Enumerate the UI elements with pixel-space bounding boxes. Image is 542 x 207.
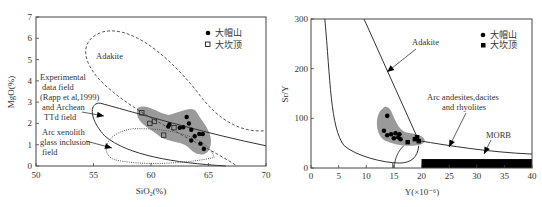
svg-text:1: 1 xyxy=(28,140,33,150)
svg-text:field: field xyxy=(42,147,58,157)
point-dakanding xyxy=(405,140,409,144)
annotation-arc-andesites: Arc andesites,dacites and rhyolites xyxy=(427,92,499,112)
svg-text:100: 100 xyxy=(295,113,309,123)
svg-text:Experimental: Experimental xyxy=(40,72,86,82)
point-damaoshan xyxy=(382,128,387,133)
point-damaoshan xyxy=(385,114,390,119)
svg-text:大坎顶: 大坎顶 xyxy=(490,39,517,50)
svg-text:(Rapp et al,1999): (Rapp et al,1999) xyxy=(40,92,99,102)
arc-curve xyxy=(419,141,532,154)
point-damaoshan xyxy=(397,132,402,137)
point-damaoshan xyxy=(201,132,205,136)
svg-text:35: 35 xyxy=(500,171,510,181)
point-dakanding xyxy=(415,135,419,139)
x-axis-label: Y(×10⁻⁶) xyxy=(405,187,439,197)
svg-text:4: 4 xyxy=(28,76,33,86)
svg-text:大帽山: 大帽山 xyxy=(490,29,517,40)
y-axis-label: MgO(%) xyxy=(6,76,16,109)
point-damaoshan xyxy=(202,147,206,151)
point-damaoshan xyxy=(181,125,185,129)
svg-text:Arc xenolith: Arc xenolith xyxy=(42,127,85,137)
svg-text:Arc andesites,dacites: Arc andesites,dacites xyxy=(427,92,499,102)
annotation-adakite: Adakite xyxy=(412,37,439,47)
point-damaoshan xyxy=(167,122,171,126)
annotation-morb: MORB xyxy=(486,130,511,140)
point-damaoshan xyxy=(189,128,193,132)
point-damaoshan xyxy=(398,137,403,142)
svg-text:5: 5 xyxy=(336,171,341,181)
legend: 大帽山 大坎顶 xyxy=(481,29,517,50)
point-damaoshan xyxy=(184,115,188,119)
svg-text:3: 3 xyxy=(28,97,33,107)
point-damaoshan xyxy=(193,134,197,138)
y-axis-label: Sr/Y xyxy=(280,85,290,103)
annotation-experimental: Experimental data field (Rapp et al,1999… xyxy=(40,72,99,122)
svg-text:大坎顶: 大坎顶 xyxy=(215,39,242,50)
svg-text:65: 65 xyxy=(204,170,214,180)
svg-text:30: 30 xyxy=(472,171,482,181)
svg-text:data field: data field xyxy=(42,82,75,92)
svg-text:0: 0 xyxy=(309,171,314,181)
point-damaoshan xyxy=(385,133,390,138)
svg-text:50: 50 xyxy=(32,170,42,180)
point-damaoshan xyxy=(198,141,202,145)
annotation-arc-xenolith: Arc xenolith glass inclusion field xyxy=(40,127,91,157)
figure: 505560657001234567 SiO2(%) MgO(%) Adakit… xyxy=(0,0,542,207)
svg-text:6: 6 xyxy=(28,33,33,43)
legend-marker-square xyxy=(481,43,486,48)
legend: 大帽山 大坎顶 xyxy=(206,27,243,50)
svg-text:大帽山: 大帽山 xyxy=(215,27,242,38)
x-axis-label: SiO2(%) xyxy=(136,186,167,197)
svg-text:300: 300 xyxy=(295,14,309,24)
svg-text:60: 60 xyxy=(147,170,157,180)
svg-text:and rhyolites: and rhyolites xyxy=(442,102,486,112)
svg-text:10: 10 xyxy=(362,171,372,181)
svg-text:20: 20 xyxy=(417,171,427,181)
point-damaoshan xyxy=(389,132,394,137)
svg-text:7: 7 xyxy=(28,12,33,22)
point-damaoshan xyxy=(393,131,398,136)
point-damaoshan xyxy=(189,138,193,142)
svg-text:2: 2 xyxy=(28,118,33,128)
legend-marker-circle xyxy=(206,31,211,36)
svg-text:25: 25 xyxy=(445,171,455,181)
sry-y-chart: 05101520253035400100200300 Y(×10⁻⁶) Sr/Y… xyxy=(280,14,537,197)
mgo-sio2-chart: 505560657001234567 SiO2(%) MgO(%) Adakit… xyxy=(6,12,271,197)
point-dakanding xyxy=(417,139,421,143)
svg-text:15: 15 xyxy=(389,171,399,181)
legend-marker-square xyxy=(206,42,211,47)
svg-text:40: 40 xyxy=(528,171,538,181)
annotation-adakite: Adakite xyxy=(96,51,123,61)
svg-text:0: 0 xyxy=(28,161,33,171)
svg-text:glass inclusion: glass inclusion xyxy=(40,137,91,147)
svg-text:TTd field: TTd field xyxy=(44,112,77,122)
svg-text:70: 70 xyxy=(262,170,272,180)
svg-text:55: 55 xyxy=(89,170,99,180)
point-damaoshan xyxy=(392,136,397,141)
point-damaoshan xyxy=(187,121,191,125)
svg-text:200: 200 xyxy=(295,64,309,74)
legend-marker-circle xyxy=(481,33,486,38)
svg-text:and Archean: and Archean xyxy=(42,102,85,112)
svg-text:5: 5 xyxy=(28,55,33,65)
svg-text:0: 0 xyxy=(304,163,309,173)
